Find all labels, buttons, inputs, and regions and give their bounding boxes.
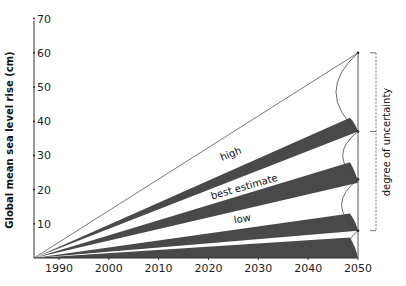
y-tick-label: 40 (37, 115, 51, 128)
uncertainty-bracket (370, 53, 376, 231)
label-degree-of-uncertainty: degree of uncertainty (381, 88, 392, 197)
y-tick-label: 70 (37, 13, 51, 26)
x-tick-label: 2030 (244, 262, 272, 275)
y-axis-title: Global mean sea level rise (cm) (4, 51, 15, 228)
y-tick-label: 20 (37, 184, 51, 197)
y-axis-ticks: 10203040506070 (33, 13, 51, 231)
scenario-bands (34, 118, 358, 258)
x-tick-label: 1990 (45, 262, 73, 275)
y-tick-label: 10 (37, 218, 51, 231)
x-tick-label: 2010 (145, 262, 173, 275)
x-tick-label: 2000 (95, 262, 123, 275)
y-tick-label: 60 (37, 47, 51, 60)
x-axis-ticks: 1990200020102020203020402050 (45, 258, 372, 275)
sea-level-chart: 10203040506070 1990200020102020203020402… (0, 0, 406, 286)
y-tick-label: 50 (37, 81, 51, 94)
label-high: high (219, 145, 243, 163)
y-tick-label: 30 (37, 149, 51, 162)
x-tick-label: 2020 (194, 262, 222, 275)
x-tick-label: 2050 (344, 262, 372, 275)
label-low: low (233, 212, 252, 226)
x-tick-label: 2040 (294, 262, 322, 275)
